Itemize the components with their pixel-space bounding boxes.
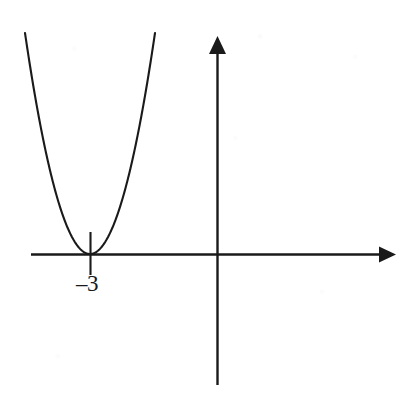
x-axis-group [31,247,396,263]
y-axis-group [209,36,226,385]
y-axis-arrowhead-icon [209,36,226,54]
parabola-curve [25,33,155,254]
parabola-curve-group [25,33,155,254]
coordinate-plane-svg [0,0,413,405]
graph-figure: –3 [0,0,413,405]
tick-label-minus-three: –3 [76,272,98,295]
x-axis-arrowhead-icon [379,247,396,263]
